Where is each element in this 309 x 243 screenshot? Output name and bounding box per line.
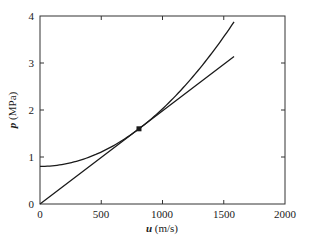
parabolic-curve <box>40 22 234 167</box>
x-axis-unit: (m/s) <box>152 222 178 235</box>
x-axis-label: u (m/s) <box>146 222 178 235</box>
x-tick-label: 500 <box>93 208 110 220</box>
tangent-point-marker <box>136 126 141 131</box>
x-tick-label: 0 <box>37 208 43 220</box>
y-tick-label: 0 <box>29 198 35 210</box>
y-tick-label: 2 <box>29 104 35 116</box>
y-axis-label: p (MPa) <box>6 91 19 129</box>
y-tick-label: 3 <box>29 57 35 69</box>
y-axis-unit: (MPa) <box>6 91 19 122</box>
y-tick-label: 4 <box>29 10 35 22</box>
chart: 0 500 1000 1500 2000 0 1 2 3 4 u (m/s) p… <box>0 0 309 243</box>
x-tick-labels: 0 500 1000 1500 2000 <box>37 208 296 220</box>
y-tick-label: 1 <box>29 151 35 163</box>
x-tick-label: 2000 <box>274 208 297 220</box>
y-tick-labels: 0 1 2 3 4 <box>29 10 35 210</box>
x-tick-label: 1500 <box>213 208 236 220</box>
x-tick-label: 1000 <box>151 208 174 220</box>
